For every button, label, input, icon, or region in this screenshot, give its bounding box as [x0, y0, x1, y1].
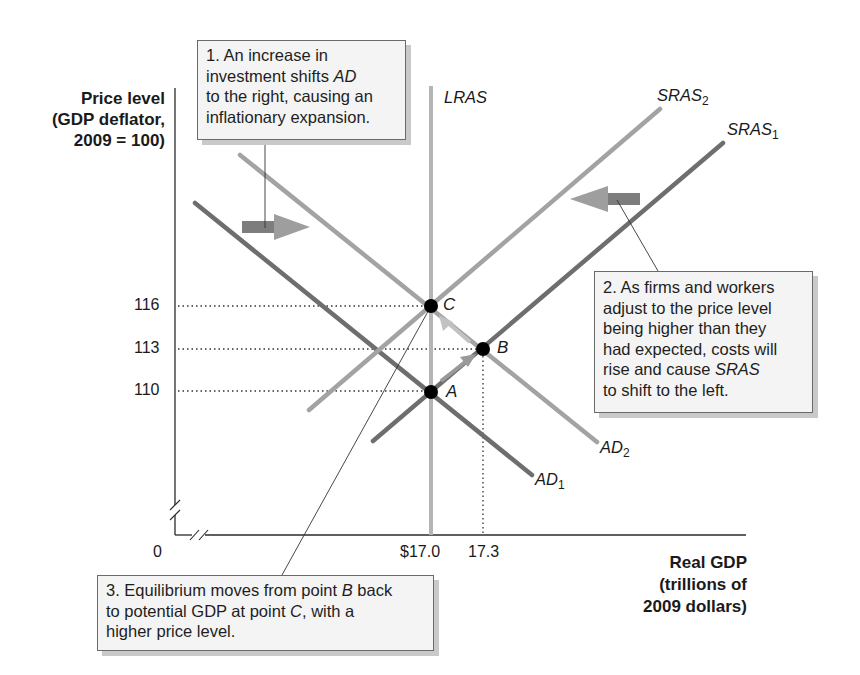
x-axis [175, 530, 746, 540]
annotation-text: 3. Equilibrium moves from point [106, 581, 342, 599]
annotation-text: to the right, causing an [206, 87, 373, 105]
annotation-box-1: 1. An increase ininvestment shifts ADto … [197, 40, 406, 140]
ad1-curve [195, 203, 532, 475]
sras1-label-sub: 1 [772, 128, 779, 142]
x-axis-label-line-1: Real GDP [600, 552, 747, 574]
x-tick-17-3: 17.3 [468, 543, 499, 561]
y-axis-label-line-1: Price level [30, 88, 165, 109]
arrow-b-to-c [439, 315, 470, 342]
y-tick-113: 113 [134, 339, 160, 357]
y-axis-label-line-3: 2009 = 100) [30, 130, 165, 151]
annotation-text: B [342, 581, 353, 599]
y-axis [170, 88, 180, 535]
y-axis-label: Price level (GDP deflator, 2009 = 100) [30, 88, 165, 151]
sras1-label-main: SRAS [727, 120, 772, 138]
sras1-label: SRAS1 [727, 120, 779, 142]
point-b [476, 342, 490, 356]
point-b-label: B [497, 338, 508, 358]
sras2-label-sub: 2 [702, 94, 709, 108]
ad2-label: AD2 [600, 438, 630, 460]
origin-label: 0 [153, 543, 162, 561]
sras2-label: SRAS2 [657, 86, 709, 108]
annotation-text: 1. An increase in [206, 46, 328, 64]
guide-lines [178, 306, 483, 533]
y-tick-116: 116 [134, 296, 160, 314]
annotation-text: adjust to the price level [603, 299, 772, 317]
x-axis-label-line-3: 2009 dollars) [600, 596, 747, 618]
sras2-label-main: SRAS [657, 86, 702, 104]
annotation-text: higher price level. [106, 622, 235, 640]
point-a-label: A [446, 382, 457, 402]
left-shift-arrow [570, 186, 640, 212]
annotation-text: had expected, costs will [603, 340, 777, 358]
annotation-text: inflationary expansion. [206, 108, 370, 126]
x-axis-label-line-2: (trillions of [600, 574, 747, 596]
annotation-text: C [290, 602, 302, 620]
annotation-box-2: 2. As firms and workersadjust to the pri… [594, 271, 813, 413]
lras-label: LRAS [444, 88, 487, 107]
annotation-text: being higher than they [603, 319, 766, 337]
annotation-text: AD [333, 67, 356, 85]
right-shift-arrow [242, 214, 310, 240]
y-axis-label-line-2: (GDP deflator, [30, 109, 165, 130]
ad1-label-main: AD [535, 470, 558, 488]
annotation-text: SRAS [715, 360, 760, 378]
ad1-label: AD1 [535, 470, 565, 492]
annotation-text: to shift to the left. [603, 381, 729, 399]
annotation-text: to potential GDP at point [106, 602, 290, 620]
ad1-label-sub: 1 [558, 478, 565, 492]
x-tick-17-0: $17.0 [400, 543, 440, 561]
annotation-box-3: 3. Equilibrium moves from point B backto… [97, 575, 434, 651]
y-tick-110: 110 [134, 381, 160, 399]
x-axis-label: Real GDP (trillions of 2009 dollars) [600, 552, 747, 618]
annotation-text: 2. As firms and workers [603, 278, 774, 296]
annotation-text: investment shifts [206, 67, 333, 85]
annotation-text: rise and cause [603, 360, 715, 378]
point-c [424, 299, 438, 313]
ad2-label-sub: 2 [623, 446, 630, 460]
point-a [424, 385, 438, 399]
annotation-text: back [353, 581, 392, 599]
ad2-label-main: AD [600, 438, 623, 456]
annotation-text: , with a [302, 602, 354, 620]
point-c-label: C [443, 295, 455, 315]
arrow-a-to-b [441, 354, 476, 381]
